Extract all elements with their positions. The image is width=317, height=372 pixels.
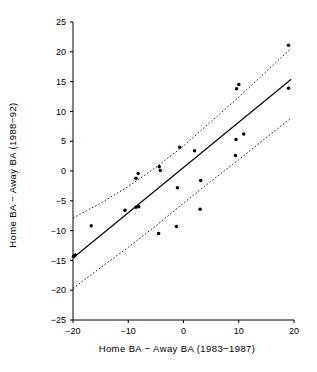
confidence-band-upper-line	[73, 48, 291, 218]
y-tick-label: 15	[56, 77, 66, 87]
regression-fit-line	[73, 79, 291, 258]
data-point	[134, 176, 138, 180]
data-point	[157, 232, 161, 236]
data-point	[73, 253, 77, 256]
y-tick-label: 10	[56, 107, 66, 117]
data-point	[234, 138, 238, 142]
y-tick-label: −5	[56, 196, 66, 206]
x-axis-title: Home BA − Away BA (1983−1987)	[99, 343, 256, 354]
confidence-band-upper	[73, 48, 291, 218]
data-point	[157, 165, 161, 169]
y-tick-label: −15	[51, 256, 66, 266]
data-point	[89, 224, 93, 228]
y-tick-label: −25	[51, 315, 66, 325]
data-point	[287, 86, 291, 90]
data-point	[242, 132, 246, 136]
data-point	[198, 207, 202, 211]
x-tick-label: −20	[65, 326, 80, 336]
data-point	[234, 154, 238, 158]
data-point	[176, 186, 180, 190]
data-point	[123, 209, 127, 213]
x-axis: −20−1001020	[65, 320, 299, 336]
data-point	[235, 87, 239, 91]
y-axis: 2520151050−5−10−15−20−25	[51, 17, 73, 325]
data-point	[137, 205, 141, 209]
y-axis-title: Home BA − Away BA (1988−92)	[7, 102, 18, 247]
x-tick-label: 20	[289, 326, 299, 336]
y-tick-label: −10	[51, 226, 66, 236]
data-point	[193, 149, 197, 153]
scatter-plot-figure: 2520151050−5−10−15−20−25 −20−1001020 Hom…	[0, 0, 317, 372]
data-point	[237, 83, 241, 87]
data-point	[199, 179, 203, 183]
confidence-band-lower-line	[73, 118, 291, 288]
data-point	[287, 43, 291, 47]
x-tick-label: 0	[181, 326, 186, 336]
data-point	[175, 225, 179, 229]
y-tick-label: 20	[56, 47, 66, 57]
data-point	[136, 172, 140, 176]
y-tick-label: −20	[51, 285, 66, 295]
plot-canvas: 2520151050−5−10−15−20−25 −20−1001020 Hom…	[0, 0, 317, 372]
y-tick-label: 25	[56, 17, 66, 27]
data-point	[178, 145, 182, 149]
data-point	[159, 169, 163, 173]
data-points	[72, 43, 290, 257]
y-tick-label: 5	[61, 136, 66, 146]
confidence-band-lower	[73, 118, 291, 288]
x-tick-label: −10	[121, 326, 136, 336]
regression-line	[73, 79, 291, 258]
x-tick-label: 10	[234, 326, 244, 336]
y-tick-label: 0	[61, 166, 66, 176]
